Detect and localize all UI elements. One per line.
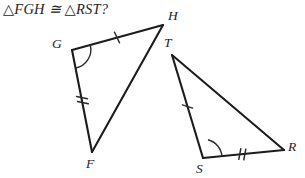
triangle-fgh [72, 25, 163, 152]
triangles-svg [0, 0, 305, 178]
segment-sr [203, 150, 284, 158]
vertex-label-h: H [168, 8, 178, 24]
segment-fh [92, 25, 163, 152]
geometry-figure: △FGH ≅ △RST? [0, 0, 305, 178]
tick-mark-sr-2 [244, 149, 246, 160]
segment-tr [172, 55, 284, 150]
tick-mark-sr-1 [239, 149, 241, 160]
vertex-label-r: R [288, 139, 296, 155]
triangle-rst [172, 55, 284, 160]
vertex-label-s: S [196, 161, 203, 177]
vertex-label-t: T [164, 35, 172, 51]
vertex-label-f: F [86, 156, 94, 172]
angle-arc-s [208, 140, 222, 156]
vertex-label-g: G [52, 36, 62, 52]
